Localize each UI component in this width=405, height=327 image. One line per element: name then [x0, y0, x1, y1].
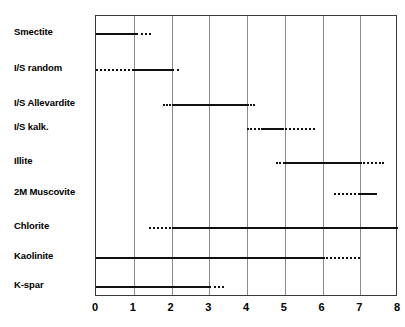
bar-segment-smectite-dotted — [136, 33, 151, 35]
bar-segment-k-spar-dotted — [209, 286, 224, 288]
bar-segment-chlorite-dotted — [149, 227, 172, 229]
category-label-i-s-random: I/S random — [14, 62, 92, 73]
bar-segment-k-spar-solid — [96, 286, 209, 288]
category-label-text: Kaolinite — [14, 250, 53, 261]
category-label-text: 2M Muscovite — [14, 186, 75, 197]
category-label-text: K-spar — [14, 279, 44, 290]
bar-segment-chlorite-solid — [172, 227, 399, 229]
category-label-text: Smectite — [14, 26, 53, 37]
category-label-chlorite: Chlorite — [14, 220, 92, 231]
bar-segment-i-s-random-solid — [134, 69, 172, 71]
bar-segment-i-s-kalk-dotted — [247, 128, 263, 130]
category-label-text: I/S Allevardite — [14, 97, 75, 108]
x-tick-label-8: 8 — [387, 301, 405, 313]
gridline-3 — [209, 16, 210, 295]
category-label-smectite: Smectite — [14, 26, 92, 37]
bar-segment-i-s-kalk-solid — [263, 128, 282, 130]
x-tick-label-0: 0 — [85, 301, 105, 313]
bar-segment-i-s-random-dotted — [172, 69, 180, 71]
gridline-4 — [247, 16, 248, 295]
bar-segment-illite-solid — [285, 162, 361, 164]
x-tick-label-6: 6 — [312, 301, 332, 313]
category-label-i-s-kalk: I/S kalk. — [14, 121, 92, 132]
x-tick-label-4: 4 — [236, 301, 256, 313]
gridline-7 — [360, 16, 361, 295]
x-tick-label-2: 2 — [161, 301, 181, 313]
category-label-kaolinite: Kaolinite — [14, 250, 92, 261]
x-tick-label-3: 3 — [198, 301, 218, 313]
bar-segment-i-s-allevardite-dotted — [163, 104, 171, 106]
category-label-i-s-allevardite: I/S Allevardite — [14, 97, 92, 108]
bar-segment-kaolinite-solid — [96, 257, 323, 259]
bar-segment-smectite-solid — [96, 33, 136, 35]
category-label-text: I/S random — [14, 62, 62, 73]
bar-segment-i-s-kalk-dotted — [282, 128, 315, 130]
bar-segment-illite-dotted — [276, 162, 284, 164]
category-label-text: Illite — [14, 155, 32, 166]
bar-segment-illite-dotted — [360, 162, 383, 164]
gridline-2 — [172, 16, 173, 295]
bar-segment-kaolinite-dotted — [323, 257, 361, 259]
category-label-text: Chlorite — [14, 220, 49, 231]
bar-segment-2m-muscovite-solid — [360, 193, 377, 195]
category-label-k-spar: K-spar — [14, 279, 92, 290]
bar-segment-i-s-random-dotted — [96, 69, 134, 71]
gridline-6 — [323, 16, 324, 295]
gridline-1 — [134, 16, 135, 295]
plot-area — [95, 15, 397, 296]
category-label-illite: Illite — [14, 155, 92, 166]
x-tick-label-1: 1 — [123, 301, 143, 313]
gridline-5 — [285, 16, 286, 295]
bar-segment-2m-muscovite-dotted — [334, 193, 360, 195]
bar-segment-i-s-allevardite-solid — [172, 104, 248, 106]
category-label-text: I/S kalk. — [14, 121, 48, 132]
category-label-2m-muscovite: 2M Muscovite — [14, 186, 92, 197]
x-tick-label-5: 5 — [274, 301, 294, 313]
x-tick-label-7: 7 — [349, 301, 369, 313]
bar-segment-i-s-allevardite-dotted — [247, 104, 255, 106]
